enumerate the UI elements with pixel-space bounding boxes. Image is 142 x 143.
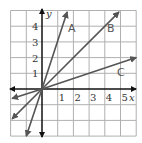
y-tick-label: 1	[32, 68, 38, 79]
x-tick-label: 2	[74, 92, 80, 103]
y-tick-label: 4	[32, 21, 38, 32]
line-b-label: B	[107, 22, 115, 35]
y-tick-labels: 1234	[32, 21, 38, 79]
line-c-label: C	[117, 66, 125, 79]
coordinate-plane: 12345 1234 x y A B C	[0, 0, 142, 143]
x-axis-label: x	[129, 92, 135, 103]
x-tick-label: 3	[90, 92, 96, 103]
x-tick-labels: 12345	[59, 92, 128, 103]
y-tick-label: 2	[32, 53, 38, 64]
x-tick-label: 5	[122, 92, 128, 103]
line-a-label: A	[68, 22, 76, 35]
y-tick-label: 3	[32, 37, 38, 48]
graph: 12345 1234 x y A B C	[0, 0, 142, 143]
x-tick-label: 1	[59, 92, 65, 103]
y-axis-label: y	[45, 8, 52, 19]
x-tick-label: 4	[106, 92, 112, 103]
